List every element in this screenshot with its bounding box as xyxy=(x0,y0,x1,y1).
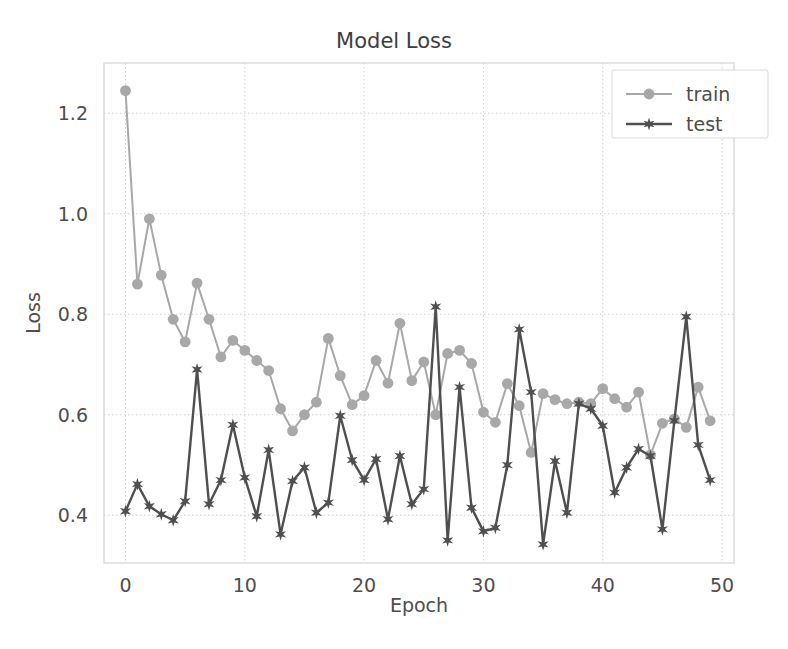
data-point-train xyxy=(263,365,274,376)
data-point-train xyxy=(239,345,250,356)
x-tick-label: 40 xyxy=(591,574,615,596)
y-tick-label: 1.0 xyxy=(58,203,88,225)
data-point-train xyxy=(132,279,143,290)
data-point-train xyxy=(335,370,346,381)
data-point-train xyxy=(609,393,620,404)
data-point-train xyxy=(430,409,441,420)
data-point-train xyxy=(299,409,310,420)
x-tick-label: 10 xyxy=(233,574,257,596)
data-point-train xyxy=(383,378,394,389)
data-point-train xyxy=(204,314,215,325)
data-point-train xyxy=(705,415,716,426)
data-point-train xyxy=(251,355,262,366)
data-point-train xyxy=(597,383,608,394)
data-point-train xyxy=(621,402,632,413)
y-tick-label: 0.8 xyxy=(58,303,88,325)
data-point-train xyxy=(275,403,286,414)
data-point-train xyxy=(371,355,382,366)
data-point-train xyxy=(311,397,322,408)
data-point-train xyxy=(466,358,477,369)
legend-label-train: train xyxy=(686,83,730,105)
data-point-train xyxy=(323,333,334,344)
x-tick-label: 50 xyxy=(710,574,734,596)
x-tick-label: 30 xyxy=(471,574,495,596)
data-point-train xyxy=(144,213,155,224)
data-point-train xyxy=(406,375,417,386)
data-point-train xyxy=(562,398,573,409)
data-point-train xyxy=(156,270,167,281)
data-point-train xyxy=(442,348,453,359)
legend-marker-circle-icon xyxy=(644,89,655,100)
data-point-train xyxy=(180,336,191,347)
data-point-train xyxy=(454,345,465,356)
data-point-train xyxy=(418,357,429,368)
chart-title: Model Loss xyxy=(336,29,452,53)
data-point-train xyxy=(681,422,692,433)
data-point-train xyxy=(395,318,406,329)
y-tick-label: 0.4 xyxy=(58,504,88,526)
data-point-train xyxy=(502,378,513,389)
y-tick-label: 0.6 xyxy=(58,404,88,426)
y-axis-title: Loss xyxy=(22,292,44,334)
chart-legend[interactable]: traintest xyxy=(612,70,768,138)
data-point-train xyxy=(347,399,358,410)
data-point-train xyxy=(538,388,549,399)
x-tick-label: 20 xyxy=(352,574,376,596)
data-point-train xyxy=(633,387,644,398)
legend-label-test: test xyxy=(686,113,723,135)
x-tick-label: 0 xyxy=(119,574,131,596)
data-point-train xyxy=(287,425,298,436)
data-point-train xyxy=(216,352,227,363)
data-point-train xyxy=(657,418,668,429)
model-loss-line-chart: Model Loss 0.40.60.81.01.2 01020304050 L… xyxy=(0,0,788,649)
data-point-train xyxy=(227,335,238,346)
data-point-train xyxy=(192,278,203,289)
data-point-train xyxy=(693,382,704,393)
x-axis-title: Epoch xyxy=(390,594,448,616)
data-point-train xyxy=(514,400,525,411)
data-point-train xyxy=(120,85,131,96)
y-tick-label: 1.2 xyxy=(58,102,88,124)
figure-canvas: Model Loss 0.40.60.81.01.2 01020304050 L… xyxy=(0,0,788,649)
data-point-train xyxy=(359,390,370,401)
data-point-train xyxy=(168,314,179,325)
data-point-train xyxy=(490,417,501,428)
data-point-train xyxy=(550,394,561,405)
data-point-train xyxy=(478,407,489,418)
